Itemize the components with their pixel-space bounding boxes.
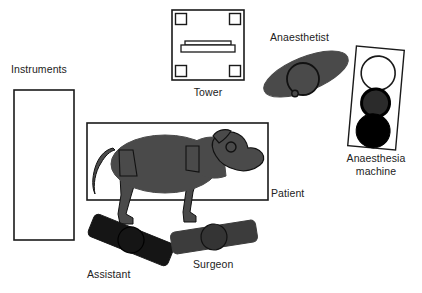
assistant-label: Assistant: [87, 268, 131, 281]
anaesthetist-label: Anaesthetist: [270, 31, 329, 44]
diagram-canvas: [0, 0, 422, 293]
anaesthetist-head-circle: [287, 63, 319, 95]
or-layout-diagram: Instruments Tower Anaesthetist Anaesthes…: [0, 0, 422, 293]
tower: [172, 10, 244, 80]
tower-corner-bottom-right: [230, 66, 241, 77]
anaesthesia-machine-label-line2: machine: [330, 165, 422, 178]
anaesthetist: [258, 41, 354, 106]
anaesthetist-hand-circle: [292, 90, 298, 96]
pig-eye: [226, 142, 236, 152]
tower-monitor-bar: [181, 45, 235, 52]
tower-corner-top-left: [176, 14, 187, 25]
instruments-table-rect: [14, 90, 74, 240]
surgeon-label: Surgeon: [193, 258, 233, 271]
surgeon: [169, 217, 258, 256]
instruments-label: Instruments: [11, 63, 67, 76]
anaesthesia-machine: [348, 46, 405, 150]
anaesthesia-machine-label-line1: Anaesthesia: [330, 152, 422, 165]
tower-corner-bottom-left: [176, 66, 187, 77]
patient-label: Patient: [271, 187, 304, 200]
instruments-table: [14, 90, 74, 240]
tower-corner-top-right: [230, 14, 241, 25]
tower-label: Tower: [172, 86, 244, 99]
